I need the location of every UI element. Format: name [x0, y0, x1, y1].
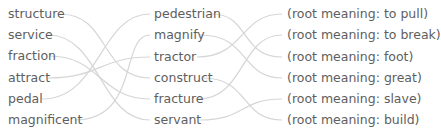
middle-word-servant: servant [154, 112, 201, 128]
root-meaning-foot: (root meaning: foot) [287, 49, 413, 65]
root-meaning-to-break: (root meaning: to break) [287, 27, 441, 43]
root-meaning-to-pull: (root meaning: to pull) [287, 6, 428, 22]
left-word-structure: structure [8, 6, 65, 22]
middle-word-construct: construct [154, 70, 213, 86]
middle-word-fracture: fracture [154, 91, 203, 107]
left-word-attract: attract [8, 70, 50, 86]
left-word-magnificent: magnificent [8, 112, 82, 128]
left-word-pedal: pedal [8, 91, 43, 107]
root-meaning-slave: (root meaning: slave) [287, 91, 422, 107]
root-meaning-great: (root meaning: great) [287, 70, 422, 86]
middle-word-pedestrian: pedestrian [154, 6, 221, 22]
left-word-service: service [8, 27, 53, 43]
middle-word-tractor: tractor [154, 49, 196, 65]
root-meaning-build: (root meaning: build) [287, 112, 420, 128]
left-word-fraction: fraction [8, 48, 56, 64]
middle-word-magnify: magnify [154, 27, 205, 43]
